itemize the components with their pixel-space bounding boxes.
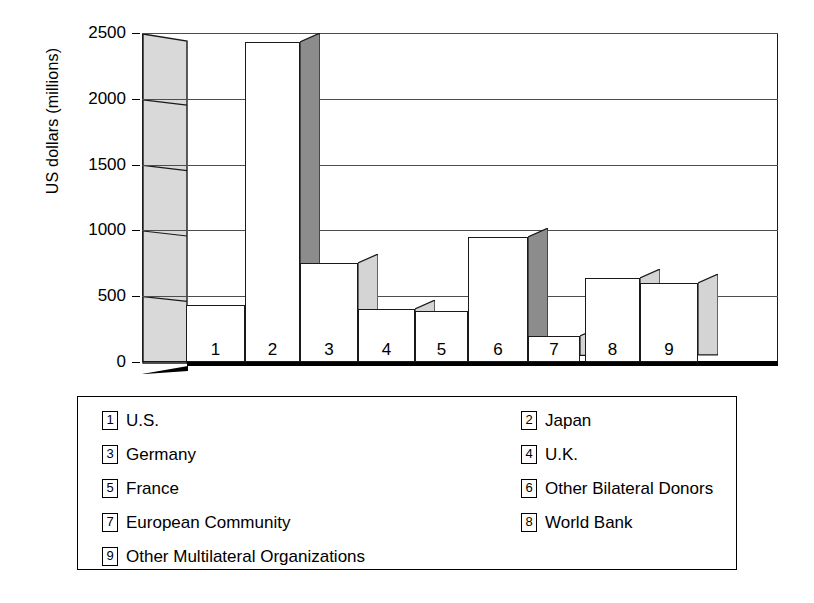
legend-label-3: Germany [126, 446, 196, 463]
legend-label-6: Other Bilateral Donors [545, 480, 713, 497]
gridline-1000 [142, 230, 778, 231]
bar-label-9: 9 [641, 341, 697, 358]
legend-label-1: U.S. [126, 412, 159, 429]
bar-label-3: 3 [301, 341, 357, 358]
legend-item-7: 7European Community [102, 513, 290, 532]
y-tick-label-1500: 1500 [64, 156, 126, 173]
bar-1-front-face: 1 [186, 305, 245, 362]
legend-item-8: 8World Bank [521, 513, 633, 532]
legend-label-5: France [126, 480, 179, 497]
gridline-2500 [142, 33, 778, 34]
bar-label-6: 6 [469, 341, 527, 358]
legend-label-4: U.K. [545, 446, 578, 463]
bar-2-front-face: 2 [245, 42, 300, 362]
legend-key-4: 4 [521, 445, 537, 464]
legend-label-9: Other Multilateral Organizations [126, 548, 365, 565]
y-tick-mark [132, 362, 140, 363]
bar-label-8: 8 [586, 341, 639, 358]
y-tick-label-500: 500 [64, 287, 126, 304]
bar-9-side-face [698, 274, 718, 364]
bar-4-front-face: 4 [358, 309, 415, 362]
legend-key-5: 5 [102, 479, 118, 498]
bar-3-front-face: 3 [300, 263, 358, 362]
y-tick-label-2000: 2000 [64, 90, 126, 107]
bar-label-2: 2 [246, 341, 299, 358]
legend-item-3: 3Germany [102, 445, 196, 464]
legend-item-9: 9Other Multilateral Organizations [102, 547, 365, 566]
legend-label-7: European Community [126, 514, 290, 531]
legend-key-8: 8 [521, 513, 537, 532]
legend-key-1: 1 [102, 411, 118, 430]
y-tick-label-1000: 1000 [64, 221, 126, 238]
y-tick-mark [132, 230, 140, 231]
legend-item-1: 1U.S. [102, 411, 159, 430]
legend-key-6: 6 [521, 479, 537, 498]
bar-label-7: 7 [529, 341, 579, 358]
y-axis-title: US dollars (millions) [44, 0, 62, 271]
bar-5-front-face: 5 [415, 311, 468, 362]
bar-9: 9 [640, 274, 718, 362]
gridline-1500 [142, 165, 778, 166]
bar-label-1: 1 [187, 341, 244, 358]
legend-item-6: 6Other Bilateral Donors [521, 479, 713, 498]
legend-key-2: 2 [521, 411, 537, 430]
y-tick-mark [132, 33, 140, 34]
legend-item-4: 4U.K. [521, 445, 578, 464]
y-tick-mark [132, 296, 140, 297]
bar-label-5: 5 [416, 341, 467, 358]
bar-7-front-face: 7 [528, 336, 580, 362]
bar-8-front-face: 8 [585, 278, 640, 362]
legend-key-3: 3 [102, 445, 118, 464]
legend-item-5: 5France [102, 479, 179, 498]
y-tick-mark [132, 165, 140, 166]
gridline-2000 [142, 99, 778, 100]
y-tick-label-0: 0 [64, 353, 126, 370]
chart-figure: US dollars (millions) 250020001500100050… [0, 0, 814, 603]
legend-label-8: World Bank [545, 514, 633, 531]
bar-9-front-face: 9 [640, 283, 698, 362]
legend-item-2: 2Japan [521, 411, 591, 430]
y-tick-label-2500: 2500 [64, 24, 126, 41]
plot-floor-corner [142, 361, 188, 369]
bar-label-4: 4 [359, 341, 414, 358]
y-tick-mark [132, 99, 140, 100]
bar-6-front-face: 6 [468, 237, 528, 362]
plot-area: 123456789 [142, 33, 778, 362]
legend-label-2: Japan [545, 412, 591, 429]
legend: 1U.S.2Japan3Germany4U.K.5France6Other Bi… [77, 396, 737, 570]
legend-key-9: 9 [102, 547, 118, 566]
legend-key-7: 7 [102, 513, 118, 532]
